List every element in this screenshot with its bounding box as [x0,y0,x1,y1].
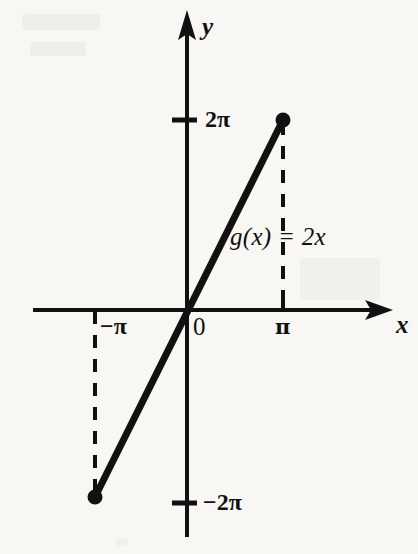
graph-figure: y x 0 2π −2π −π π g(x) = 2x [0,0,418,554]
graph-canvas [0,0,418,554]
x-tick-label-neg-pi: −π [100,314,127,338]
origin-label: 0 [193,314,206,339]
y-axis [178,10,196,537]
x-axis-label: x [396,312,409,337]
function-equation-label: g(x) = 2x [230,224,326,249]
y-tick-label-neg-2pi: −2π [203,490,242,514]
y-axis-label: y [202,14,213,39]
x-tick-label-pi: π [275,316,290,337]
y-tick-label-2pi: 2π [205,107,230,131]
endpoint-dot-lower [88,490,103,505]
endpoint-dot-upper [276,113,291,128]
x-axis [33,300,393,320]
